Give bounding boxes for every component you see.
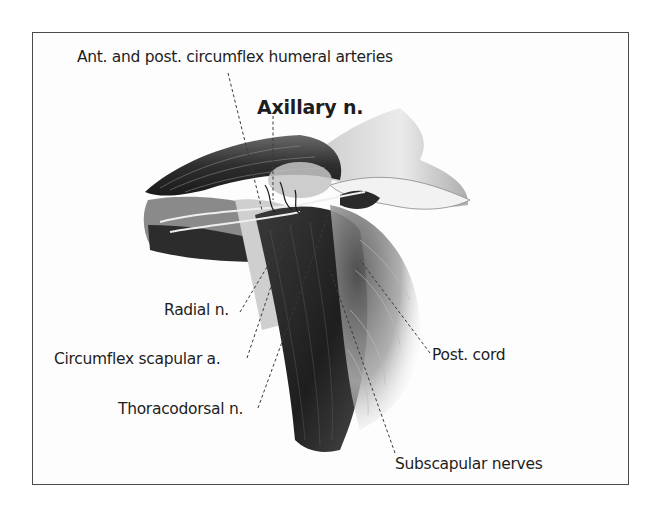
label-circumflex-scapular: Circumflex scapular a. bbox=[54, 352, 220, 368]
label-axillary-nerve: Axillary n. bbox=[257, 98, 363, 117]
humeral-head bbox=[268, 162, 332, 198]
anatomy-illustration bbox=[0, 0, 655, 512]
label-posterior-cord: Post. cord bbox=[432, 348, 505, 364]
label-thoracodorsal: Thoracodorsal n. bbox=[118, 402, 243, 418]
label-subscapular: Subscapular nerves bbox=[395, 457, 542, 473]
label-radial-nerve: Radial n. bbox=[164, 303, 229, 319]
label-humeral-arteries: Ant. and post. circumflex humeral arteri… bbox=[77, 50, 393, 66]
